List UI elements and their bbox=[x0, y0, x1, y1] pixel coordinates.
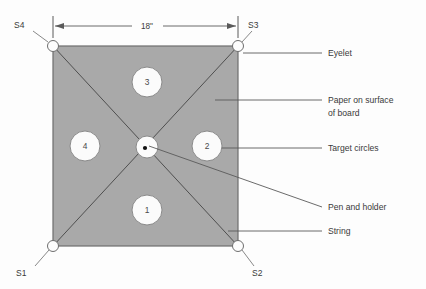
board-width-dimension: 18" bbox=[53, 16, 238, 38]
callout-paper-label-line2: of board bbox=[328, 108, 360, 118]
callout-target-circles-label: Target circles bbox=[328, 143, 379, 153]
target-circle-3-label: 3 bbox=[145, 77, 150, 87]
target-circle-2: 2 bbox=[192, 131, 222, 161]
diagram-root: 18" 3 4 2 1 bbox=[0, 0, 426, 289]
pen-holder-circle-shape bbox=[136, 136, 158, 158]
dimension-arrow-right-icon bbox=[227, 23, 236, 29]
target-circle-4: 4 bbox=[70, 131, 100, 161]
target-circle-4-label: 4 bbox=[83, 141, 88, 151]
pen-holder-circle bbox=[136, 136, 158, 158]
target-circle-2-label: 2 bbox=[205, 141, 210, 151]
leader-s4 bbox=[33, 31, 48, 42]
callout-paper-label-line1: Paper on surface bbox=[328, 95, 394, 105]
callout-string-label: String bbox=[328, 226, 351, 236]
target-circle-1: 1 bbox=[132, 195, 162, 225]
target-circle-3: 3 bbox=[132, 67, 162, 97]
dimension-arrow-left-icon bbox=[55, 23, 64, 29]
pen-tip-dot-icon bbox=[143, 146, 147, 150]
target-board-diagram: 18" 3 4 2 1 bbox=[0, 0, 426, 289]
eyelet-s2-icon bbox=[233, 241, 244, 252]
leader-s3 bbox=[242, 31, 252, 42]
eyelet-s3-icon bbox=[233, 41, 244, 52]
eyelet-s4-icon bbox=[48, 41, 59, 52]
eyelet-s1-icon bbox=[48, 241, 59, 252]
leader-s2 bbox=[242, 250, 254, 266]
corner-label-s3: S3 bbox=[248, 20, 259, 30]
callout-pen-holder-label: Pen and holder bbox=[328, 202, 386, 212]
corner-label-s2: S2 bbox=[252, 268, 263, 278]
leader-s1 bbox=[35, 250, 49, 266]
dimension-label: 18" bbox=[141, 22, 153, 31]
target-circle-1-label: 1 bbox=[145, 205, 150, 215]
callout-eyelet-label: Eyelet bbox=[328, 48, 352, 58]
corner-label-s1: S1 bbox=[16, 268, 27, 278]
corner-label-s4: S4 bbox=[14, 20, 25, 30]
